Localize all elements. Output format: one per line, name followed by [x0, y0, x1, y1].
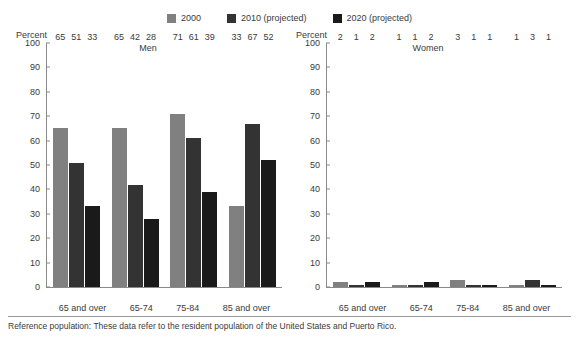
x-axis-tick-label: 85 and over [223, 303, 271, 313]
x-axis-tick-label: 65 and over [59, 303, 107, 313]
y-axis-tick-label: 20 [30, 234, 40, 243]
bar-value-label: 67 [248, 33, 258, 42]
bar: 3 [525, 280, 540, 287]
chart-panel-men: Percent Men 0102030405060708090100 65513… [8, 30, 288, 312]
bar-value-label: 2 [429, 33, 434, 42]
y-axis-tick-label: 50 [310, 161, 320, 170]
y-axis-tick-label: 0 [35, 283, 40, 292]
y-axis-tick-label: 60 [310, 136, 320, 145]
y-axis-women: 0102030405060708090100 [296, 43, 326, 288]
legend-item: 2000 [167, 14, 201, 23]
footnote-divider [8, 316, 571, 317]
bars-women: 212112311131 [327, 43, 562, 287]
bar: 3 [450, 280, 465, 287]
bar-container: 65 [112, 43, 127, 287]
bar: 65 [53, 128, 68, 287]
legend-item-label: 2010 (projected) [241, 14, 307, 23]
bar-container: 1 [349, 43, 364, 287]
chart-legend: 20002010 (projected)2020 (projected) [0, 14, 579, 23]
y-axis-tick-label: 90 [310, 63, 320, 72]
bar: 1 [466, 285, 481, 287]
legend-item-label: 2020 (projected) [347, 14, 413, 23]
bar-value-label: 1 [514, 33, 519, 42]
x-axis-tick-label: 65-74 [410, 303, 433, 313]
bar-group: 212 [333, 43, 380, 287]
bar-value-label: 42 [130, 33, 140, 42]
x-axis-tick-label: 75-84 [176, 303, 199, 313]
y-axis-tick-label: 30 [310, 209, 320, 218]
bar-container: 3 [450, 43, 465, 287]
bar-group: 311 [450, 43, 497, 287]
bar: 61 [186, 138, 201, 287]
bar: 1 [392, 285, 407, 287]
bar-container: 39 [202, 43, 217, 287]
bar: 52 [261, 160, 276, 287]
bar-container: 52 [261, 43, 276, 287]
bar-container: 61 [186, 43, 201, 287]
bar-container: 3 [525, 43, 540, 287]
bar: 1 [482, 285, 497, 287]
bar: 2 [365, 282, 380, 287]
bar-value-label: 65 [114, 33, 124, 42]
bar: 33 [229, 206, 244, 287]
bar-value-label: 39 [205, 33, 215, 42]
bar: 1 [509, 285, 524, 287]
bar-value-label: 33 [87, 33, 97, 42]
bar-value-label: 61 [189, 33, 199, 42]
bar-group: 716139 [170, 43, 217, 287]
y-axis-tick-label: 40 [30, 185, 40, 194]
legend-swatch-icon [333, 14, 342, 23]
bar-value-label: 3 [455, 33, 460, 42]
bar-value-label: 28 [146, 33, 156, 42]
bar-value-label: 1 [546, 33, 551, 42]
bar-container: 1 [509, 43, 524, 287]
bar-group: 131 [509, 43, 556, 287]
x-axis-labels-men: 65 and over65-7475-8485 and over [47, 303, 282, 313]
bar-container: 51 [69, 43, 84, 287]
x-axis-tick-label: 85 and over [503, 303, 551, 313]
legend-item: 2020 (projected) [333, 14, 413, 23]
bar-group: 112 [392, 43, 439, 287]
bar-container: 33 [229, 43, 244, 287]
y-axis-tick-label: 20 [310, 234, 320, 243]
y-axis-tick-label: 80 [30, 87, 40, 96]
x-axis-line-women [326, 287, 562, 288]
bars-men: 655133654228716139336752 [47, 43, 282, 287]
bar: 28 [144, 219, 159, 287]
bar: 1 [541, 285, 556, 287]
x-axis-tick-label: 75-84 [456, 303, 479, 313]
bar-container: 65 [53, 43, 68, 287]
bar-value-label: 52 [264, 33, 274, 42]
x-axis-tick-label: 65 and over [339, 303, 387, 313]
bar-value-label: 71 [173, 33, 183, 42]
bar-group: 336752 [229, 43, 276, 287]
bar: 2 [424, 282, 439, 287]
x-axis-tick-label: 65-74 [130, 303, 153, 313]
bar-value-label: 1 [471, 33, 476, 42]
legend-item-label: 2000 [181, 14, 201, 23]
bar: 1 [408, 285, 423, 287]
bar-value-label: 33 [232, 33, 242, 42]
bar-container: 1 [408, 43, 423, 287]
x-axis-line-men [46, 287, 282, 288]
legend-item: 2010 (projected) [227, 14, 307, 23]
bar: 42 [128, 185, 143, 287]
bar-value-label: 1 [354, 33, 359, 42]
chart-panel-women: Percent Women 0102030405060708090100 212… [288, 30, 568, 312]
bar: 2 [333, 282, 348, 287]
y-axis-tick-label: 100 [305, 39, 320, 48]
y-axis-men: 0102030405060708090100 [16, 43, 46, 288]
bar: 65 [112, 128, 127, 287]
y-axis-tick-label: 60 [30, 136, 40, 145]
bar-container: 2 [333, 43, 348, 287]
bar-value-label: 1 [397, 33, 402, 42]
y-axis-tick-label: 100 [25, 39, 40, 48]
bar-container: 1 [482, 43, 497, 287]
x-axis-labels-women: 65 and over65-7475-8485 and over [327, 303, 562, 313]
bar-container: 1 [466, 43, 481, 287]
bar-value-label: 1 [487, 33, 492, 42]
y-axis-tick-label: 0 [315, 283, 320, 292]
bar-value-label: 3 [530, 33, 535, 42]
bar-container: 1 [392, 43, 407, 287]
bar-container: 67 [245, 43, 260, 287]
